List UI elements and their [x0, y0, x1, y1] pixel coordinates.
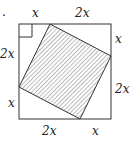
- label-bottom-right: x: [92, 124, 99, 138]
- label-bottom-left: 2x: [41, 124, 57, 138]
- label-left-bottom: x: [8, 96, 15, 110]
- stray-mark: .: [2, 5, 6, 19]
- inner-square-hatched: [19, 24, 111, 119]
- label-left-top: 2x: [0, 47, 15, 61]
- inscribed-square-diagram: . x 2x x 2x 2x x 2x x: [0, 0, 132, 141]
- label-top-right: 2x: [74, 6, 90, 20]
- label-top-left: x: [32, 6, 39, 20]
- label-right-bottom: 2x: [114, 82, 130, 96]
- label-right-top: x: [115, 32, 122, 46]
- right-angle-marker: [19, 24, 32, 37]
